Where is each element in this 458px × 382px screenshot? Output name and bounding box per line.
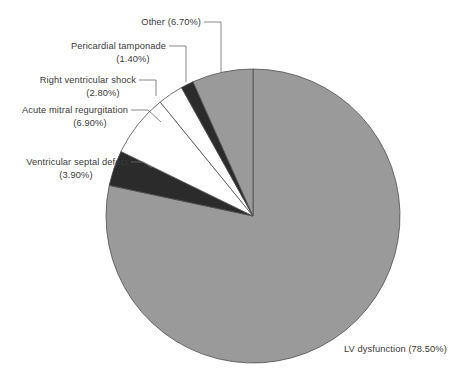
label-ventricular-septal-defect-name: Ventricular septal defect (26, 157, 128, 167)
label-other: Other (6.70%) (141, 17, 201, 27)
leader-line-pericardial-tamponade (169, 46, 186, 82)
label-pericardial-tamponade-value: (1.40%) (116, 54, 149, 64)
label-pericardial-tamponade-name: Pericardial tamponade (71, 41, 166, 51)
pie-chart-figure: Other (6.70%) Pericardial tamponade (1.4… (0, 0, 458, 382)
label-right-ventricular-shock-value: (2.80%) (86, 88, 119, 98)
pie-chart-canvas: Other (6.70%) Pericardial tamponade (1.4… (0, 0, 458, 382)
leader-line-other (204, 22, 221, 73)
label-acute-mitral-regurgitation-name: Acute mitral regurgitation (22, 105, 128, 115)
leader-line-right-ventricular-shock (139, 80, 156, 96)
label-ventricular-septal-defect-value: (3.90%) (59, 170, 92, 180)
label-acute-mitral-regurgitation-value: (6.90%) (73, 118, 106, 128)
label-lv-dysfunction: LV dysfunction (78.50%) (344, 344, 447, 354)
label-right-ventricular-shock-name: Right ventricular shock (40, 75, 137, 85)
pie-slices (106, 69, 400, 363)
